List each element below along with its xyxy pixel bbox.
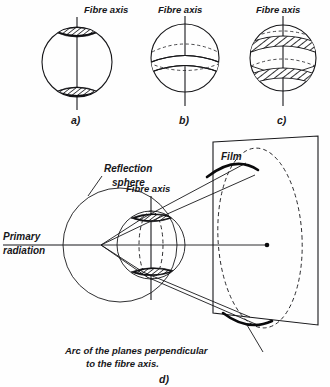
lower-cone-edge-bottom <box>101 245 260 326</box>
reflection-sphere-label-line1: Reflection <box>104 163 152 174</box>
panel-b: Fibre axis b) <box>149 4 221 126</box>
panel-a-letter: a) <box>71 114 81 126</box>
lower-cone-edge-top <box>101 245 250 317</box>
primary-radiation-label-line1: Primary <box>3 231 41 242</box>
arc-caption-line1: Arc of the planes perpendicular <box>64 345 209 356</box>
panel-d: Film Reflection sphere Fibre axis Primar… <box>3 136 318 385</box>
panel-b-letter: b) <box>179 114 189 126</box>
fibre-axis-label: Fibre axis <box>126 183 170 194</box>
arc-caption-line2: to the fibre axis. <box>86 358 159 369</box>
direct-beam-spot <box>265 243 270 248</box>
arc-caption-leader <box>247 325 263 352</box>
panel-a-axis-label: Fibre axis <box>84 4 128 15</box>
figure-root: Fibre axis a) Fibre axis b) <box>0 0 330 387</box>
panel-c-letter: c) <box>277 114 287 126</box>
primary-radiation-label-line2: radiation <box>3 245 45 256</box>
reflection-sphere-leader <box>88 176 102 196</box>
panel-b-axis-label: Fibre axis <box>158 4 202 15</box>
panel-c: Fibre axis c) <box>250 4 316 126</box>
cone-trace-ellipse <box>213 146 306 330</box>
upper-cone-edge-top <box>101 163 246 245</box>
fibre-diffraction-figure: Fibre axis a) Fibre axis b) <box>0 0 330 387</box>
panel-c-axis-label: Fibre axis <box>256 4 300 15</box>
panel-a: Fibre axis a) <box>42 4 128 126</box>
panel-d-letter: d) <box>159 373 169 385</box>
